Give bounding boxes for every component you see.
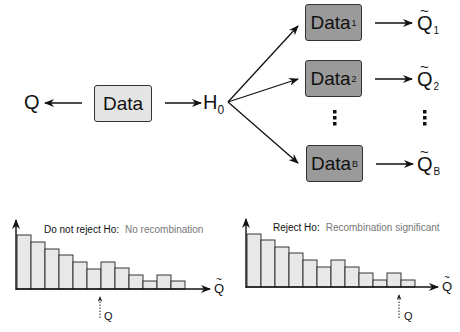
decision-label: Reject Ho: (273, 222, 320, 233)
decision-label: Do not reject Ho: (44, 224, 119, 235)
ellipsis-icon-stats (423, 110, 427, 126)
left-observed-q-label: Q (104, 311, 113, 322)
tilde-mark: ~ (216, 275, 222, 285)
tilde-mark: ~ (444, 273, 450, 283)
right-x-axis-label: ~Q (442, 280, 452, 293)
conclusion-label: No recombination (125, 224, 203, 235)
left-x-axis-label: ~Q (214, 282, 224, 295)
ellipsis-icon-boxes (333, 110, 337, 126)
bootstrap-test-diagram: Q Data H0 Data1 Data2 DataB ~Q1 ~Q2 ~QB (0, 0, 460, 332)
right-panel-title: Reject Ho:Recombination significant (273, 222, 440, 233)
vertical-ellipsis-icons (0, 0, 460, 332)
conclusion-label: Recombination significant (326, 222, 440, 233)
left-panel-title: Do not reject Ho:No recombination (44, 224, 203, 235)
right-observed-q-label: Q (404, 311, 413, 322)
